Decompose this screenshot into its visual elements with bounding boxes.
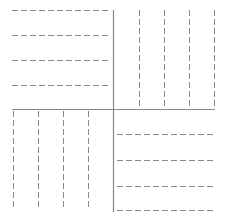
parquet-diagram bbox=[0, 0, 232, 220]
